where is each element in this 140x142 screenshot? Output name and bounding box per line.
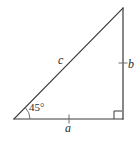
- right-triangle-figure: c b a 45°: [0, 0, 140, 142]
- label-vertical-side-b: b: [128, 58, 134, 70]
- label-base-side-a: a: [65, 122, 71, 134]
- label-hypotenuse-c: c: [58, 54, 63, 66]
- right-angle-marker-icon: [114, 111, 122, 119]
- label-angle-45-degrees: 45°: [29, 102, 44, 113]
